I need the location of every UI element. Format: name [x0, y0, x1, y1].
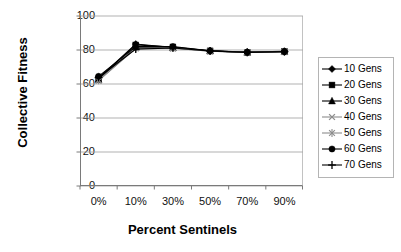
x-tick-label: 90% — [261, 196, 307, 207]
series-line — [99, 47, 285, 77]
chart-legend: 10 Gens20 Gens30 Gens40 Gens50 Gens60 Ge… — [318, 57, 394, 178]
y-axis-title: Collective Fitness — [15, 8, 30, 178]
data-point-marker — [329, 146, 335, 152]
legend-marker-triangle-icon — [321, 93, 343, 109]
legend-label: 10 Gens — [343, 61, 382, 77]
legend-item: 20 Gens — [321, 77, 391, 93]
legend-label: 40 Gens — [343, 109, 382, 125]
legend-label: 60 Gens — [343, 141, 382, 157]
data-point-marker — [329, 66, 336, 73]
legend-marker-square-icon — [321, 77, 343, 93]
series-10-gens — [95, 41, 288, 82]
legend-label: 50 Gens — [343, 125, 382, 141]
data-point-marker — [329, 82, 335, 88]
legend-label: 30 Gens — [343, 93, 382, 109]
legend-label: 20 Gens — [343, 77, 382, 93]
legend-item: 60 Gens — [321, 141, 391, 157]
legend-marker-star-icon — [321, 125, 343, 141]
series-40-gens — [96, 45, 288, 83]
legend-item: 10 Gens — [321, 61, 391, 77]
legend-item: 30 Gens — [321, 93, 391, 109]
series-60-gens — [95, 44, 287, 80]
legend-label: 70 Gens — [343, 157, 382, 173]
legend-item: 50 Gens — [321, 125, 391, 141]
legend-marker-x-icon — [321, 109, 343, 125]
legend-item: 40 Gens — [321, 109, 391, 125]
chart-figure: Collective Fitness Percent Sentinels 100… — [0, 0, 401, 252]
legend-item: 70 Gens — [321, 157, 391, 173]
data-point-marker — [328, 161, 336, 169]
x-axis-title: Percent Sentinels — [60, 222, 305, 237]
series-20-gens — [96, 42, 288, 82]
plot-area — [80, 16, 303, 186]
legend-marker-diamond-icon — [321, 61, 343, 77]
legend-marker-plus-icon — [321, 157, 343, 173]
legend-marker-circle-icon — [321, 141, 343, 157]
